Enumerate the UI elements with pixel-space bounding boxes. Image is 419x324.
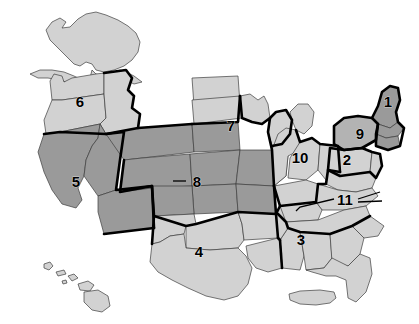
region-label-6: 6: [76, 93, 84, 110]
region-label-11: 11: [337, 191, 353, 208]
map-canvas: 1 2 3 4 5 6 7 8 9 10 11: [0, 0, 419, 324]
region-label-5: 5: [72, 173, 80, 190]
region-label-3: 3: [297, 231, 305, 248]
us-region-map: 1 2 3 4 5 6 7 8 9 10 11: [0, 0, 419, 324]
region-6-states: [44, 70, 140, 134]
region-label-9: 9: [356, 125, 364, 142]
region-label-7: 7: [227, 117, 235, 134]
region-label-2: 2: [343, 151, 351, 168]
region-label-1: 1: [384, 93, 392, 110]
inset-hawaii: [44, 262, 110, 312]
region-label-8: 8: [193, 173, 201, 190]
region-label-10: 10: [292, 149, 309, 166]
region-label-4: 4: [195, 243, 204, 260]
inset-puerto-rico: [289, 290, 336, 305]
